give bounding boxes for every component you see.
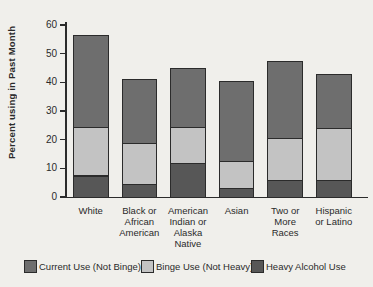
bar-segment-heavy-alcohol-use-asian [219,188,255,198]
y-tick-label-30: 30 [35,106,57,116]
y-tick-label-40: 40 [35,77,57,87]
x-axis-label-american-indian-or-alaska-native: American Indian or Alaska Native [168,205,208,249]
stacked-bar-chart-figure: Percent using in Past Month 010203040506… [0,0,373,287]
y-tick-30 [60,110,65,112]
bar-segment-heavy-alcohol-use-black-or-african-american [122,184,158,198]
bar-segment-binge-use-not-heavy-black-or-african-american [122,143,158,186]
y-tick-10 [60,168,65,170]
bar-segment-heavy-alcohol-use-american-indian-or-alaska-native [170,163,206,198]
legend-swatch-heavy-alcohol-use [251,260,264,273]
bar-segment-current-use-not-binge-two-or-more-races [267,61,303,139]
y-tick-50 [60,53,65,55]
y-axis-line [65,22,67,198]
bar-segment-current-use-not-binge-black-or-african-american [122,79,158,144]
bar-segment-binge-use-not-heavy-two-or-more-races [267,138,303,181]
bar-segment-current-use-not-binge-american-indian-or-alaska-native [170,68,206,128]
legend-label-binge-use-not-heavy: Binge Use (Not Heavy) [156,261,253,272]
y-tick-20 [60,139,65,141]
y-tick-label-20: 20 [35,135,57,145]
legend-item-binge-use-not-heavy: Binge Use (Not Heavy) [141,259,253,273]
bar-segment-binge-use-not-heavy-white [73,127,109,177]
x-axis-label-asian: Asian [225,205,249,216]
bar-segment-heavy-alcohol-use-hispanic-or-latino [316,180,352,198]
x-axis-label-two-or-more-races: Two or More Races [271,205,300,238]
bar-segment-current-use-not-binge-asian [219,81,255,162]
y-tick-0 [60,196,65,198]
bar-segment-binge-use-not-heavy-hispanic-or-latino [316,128,352,181]
bar-segment-heavy-alcohol-use-two-or-more-races [267,180,303,198]
y-tick-label-60: 60 [35,20,57,30]
bar-segment-current-use-not-binge-hispanic-or-latino [316,74,352,129]
legend-swatch-binge-use-not-heavy [141,260,154,273]
y-tick-label-0: 0 [35,192,57,202]
x-axis-label-hispanic-or-latino: Hispanic or Latino [315,205,352,227]
x-axis-label-white: White [79,205,103,216]
bar-segment-current-use-not-binge-white [73,35,109,128]
y-tick-label-50: 50 [35,49,57,59]
legend-item-heavy-alcohol-use: Heavy Alcohol Use [251,259,346,273]
bar-segment-binge-use-not-heavy-asian [219,161,255,189]
legend-label-heavy-alcohol-use: Heavy Alcohol Use [266,261,346,272]
legend-item-current-use-not-binge: Current Use (Not Binge) [24,259,141,273]
legend-swatch-current-use-not-binge [24,260,37,273]
y-tick-40 [60,82,65,84]
y-tick-label-10: 10 [35,163,57,173]
bar-segment-binge-use-not-heavy-american-indian-or-alaska-native [170,127,206,164]
plot-area: 0102030405060WhiteBlack or African Ameri… [0,0,373,287]
bar-segment-heavy-alcohol-use-white [73,176,109,199]
x-axis-label-black-or-african-american: Black or African American [119,205,159,238]
legend-label-current-use-not-binge: Current Use (Not Binge) [39,261,141,272]
y-tick-60 [60,24,65,26]
